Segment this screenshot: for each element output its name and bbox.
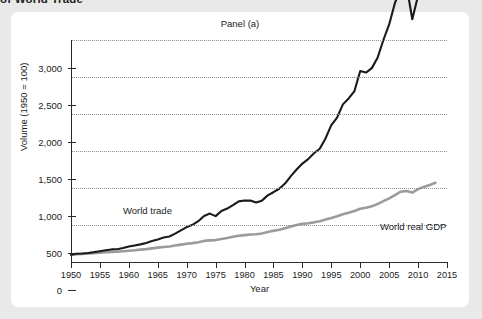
y-axis-tick-label: 1,500 [38,174,62,185]
x-axis-tick-label: 2015 [437,270,457,280]
x-axis-title: Year [71,283,448,294]
x-axis-tick [360,263,361,268]
x-axis-tick [245,263,246,268]
y-axis-tick: 2,500 [68,105,76,106]
x-axis-tick-label: 1985 [263,270,283,280]
y-axis: 05001,0001,5002,0002,5003,000 [71,40,72,263]
x-axis-tick-label: 2005 [379,270,399,280]
gridline-y [71,188,447,189]
x-axis-tick [100,263,101,268]
x-axis-tick [71,263,72,268]
x-axis-tick [302,263,303,268]
x-axis-tick [273,263,274,268]
x-axis-tick [187,263,188,268]
x-axis-tick-label: 1950 [61,270,81,280]
x-axis-tick [418,263,419,268]
panel-title: Panel (a) [11,18,469,29]
series-line-world-real-gdp [71,183,435,255]
x-axis-tick-label: 1995 [321,270,341,280]
x-axis-tick-label: 1970 [176,270,196,280]
y-axis-tick: 1,000 [68,216,76,217]
x-axis-tick-label: 1955 [90,270,110,280]
gridline-y [71,40,447,41]
x-axis-tick [129,263,130,268]
y-axis-tick-label: 2,500 [38,100,62,111]
x-axis-tick [158,263,159,268]
y-axis-tick: 3,000 [68,68,76,69]
clipped-figure-caption: of World Trade [0,0,300,7]
series-label-world-trade: World trade [123,205,172,216]
x-axis-tick [216,263,217,268]
chart-card: Panel (a) Volume (1950 = 100) 05001,0001… [11,12,469,307]
y-axis-tick-label: 500 [46,248,62,259]
x-axis-tick-label: 2000 [350,270,370,280]
y-axis-tick: 2,000 [68,142,76,143]
gridline-y [71,114,447,115]
x-axis-tick [389,263,390,268]
x-axis: 1950195519601965197019751980198519901995… [71,262,448,263]
y-axis-tick: 500 [68,253,76,254]
y-axis-title: Volume (1950 = 100) [18,63,29,151]
x-axis-tick-label: 1960 [119,270,139,280]
series-label-world-real-gdp: World real GDP [380,221,446,232]
x-axis-tick [447,263,448,268]
y-axis-tick-label: 2,000 [38,137,62,148]
gridline-y [71,151,447,152]
x-axis-tick-label: 1990 [292,270,312,280]
screenshot-root: of World Trade Panel (a) Volume (1950 = … [0,0,482,319]
y-axis-tick-label: 0 [57,285,62,296]
y-axis-tick-label: 3,000 [38,63,62,74]
x-axis-tick-label: 1975 [205,270,225,280]
gridline-y [71,77,447,78]
y-axis-tick: 1,500 [68,179,76,180]
x-axis-tick-label: 2010 [408,270,428,280]
series-line-world-trade [71,0,435,255]
y-axis-tick-label: 1,000 [38,211,62,222]
x-axis-tick-label: 1965 [148,270,168,280]
x-axis-tick [331,263,332,268]
x-axis-tick-label: 1980 [234,270,254,280]
